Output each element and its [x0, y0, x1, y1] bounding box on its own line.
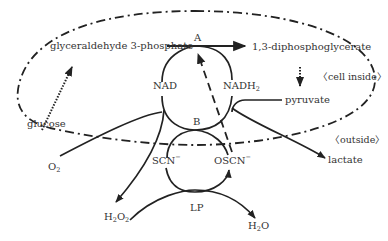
nad-cycle-upper — [162, 46, 232, 82]
pyruvate-line — [232, 100, 282, 112]
dpg-label: 1,3-diphosphoglycerate — [252, 41, 371, 52]
pyruvate-label: pyruvate — [285, 94, 330, 105]
nad-label: NAD — [153, 80, 177, 91]
cell-inside-label: 〈cell inside〉 — [318, 71, 387, 82]
g3p-label: glyceraldehyde 3-phosphate — [50, 40, 193, 51]
scn-label: SCN− — [152, 153, 181, 166]
o2-label: O2 — [48, 161, 60, 174]
lactate-arrow — [232, 108, 325, 158]
enzyme-b-label: B — [193, 116, 200, 127]
oscn-label: OSCN− — [214, 153, 251, 166]
lactate-label: lactate — [328, 154, 363, 165]
enzyme-a-label: A — [193, 32, 202, 43]
scn-cycle-right — [195, 130, 228, 155]
lp-label: LP — [190, 202, 204, 213]
o2-line — [60, 112, 162, 156]
nadh2-label: NADH2 — [223, 80, 260, 93]
scn-cycle-bottom — [166, 168, 229, 192]
glucose-label: glucose — [27, 118, 66, 129]
h2o2-label: H2O2 — [104, 211, 129, 224]
h2o-label: H2O — [248, 220, 269, 233]
glycolysis-lp-scn-diagram: glyceraldehyde 3-phosphate 1,3-diphospho… — [0, 0, 388, 241]
outside-label: 〈outside〉 — [330, 134, 385, 145]
